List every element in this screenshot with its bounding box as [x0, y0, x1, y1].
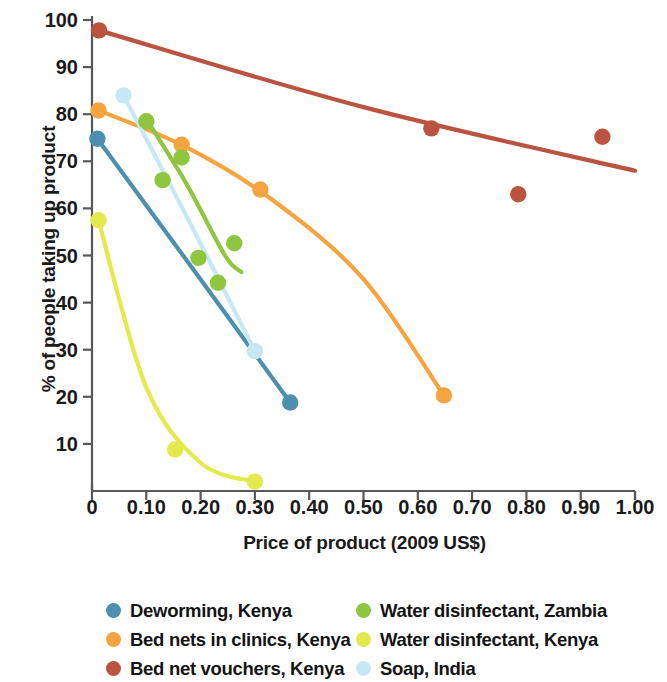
data-point: [91, 22, 107, 38]
legend-item[interactable]: Bed net vouchers, Kenya: [106, 658, 356, 680]
series-water-disinfectant-zambia: [146, 119, 241, 272]
series-line: [99, 110, 444, 395]
series-line: [97, 139, 290, 403]
data-point: [282, 394, 298, 410]
data-point: [90, 102, 106, 118]
legend-item[interactable]: Soap, India: [356, 658, 636, 680]
legend-label: Soap, India: [380, 658, 475, 680]
data-point: [226, 235, 242, 251]
data-point: [247, 343, 263, 359]
data-point: [252, 181, 268, 197]
chart-container: % of people taking up product 1020304050…: [0, 0, 667, 682]
data-point: [210, 275, 226, 291]
series-deworming-kenya: [97, 139, 290, 403]
legend-swatch-icon: [106, 632, 121, 647]
series-line: [123, 95, 254, 351]
plot-area: [0, 0, 667, 510]
legend-label: Water disinfectant, Zambia: [380, 600, 607, 622]
legend-swatch-icon: [356, 661, 371, 676]
legend-label: Bed nets in clinics, Kenya: [130, 629, 350, 651]
x-axis-title: Price of product (2009 US$): [92, 532, 637, 554]
data-point: [115, 87, 131, 103]
data-point: [154, 172, 170, 188]
x-axis-tick-label: 1.00: [598, 497, 667, 517]
series-bed-nets-in-clinics-kenya: [99, 110, 444, 395]
data-point: [167, 441, 183, 457]
series-markers: [90, 102, 452, 403]
series-line: [146, 119, 241, 272]
legend-item[interactable]: Water disinfectant, Zambia: [356, 600, 636, 622]
data-point: [89, 130, 105, 146]
data-point: [436, 387, 452, 403]
legend-swatch-icon: [356, 603, 371, 618]
legend-swatch-icon: [106, 661, 121, 676]
data-point: [173, 149, 189, 165]
legend-label: Deworming, Kenya: [130, 600, 292, 622]
legend-swatch-icon: [356, 632, 371, 647]
legend-item[interactable]: Deworming, Kenya: [106, 600, 356, 622]
data-point: [247, 473, 263, 489]
data-point: [190, 250, 206, 266]
legend-item[interactable]: Water disinfectant, Kenya: [356, 629, 636, 651]
legend-swatch-icon: [106, 603, 121, 618]
data-point: [90, 212, 106, 228]
legend-label: Water disinfectant, Kenya: [380, 629, 598, 651]
data-point: [138, 113, 154, 129]
chart-legend: Deworming, KenyaWater disinfectant, Zamb…: [106, 596, 646, 682]
legend-item[interactable]: Bed nets in clinics, Kenya: [106, 629, 356, 651]
data-point: [594, 129, 610, 145]
series-soap-india: [123, 95, 254, 351]
legend-label: Bed net vouchers, Kenya: [130, 658, 344, 680]
series-markers: [90, 212, 263, 490]
data-point: [510, 186, 526, 202]
data-point: [423, 120, 439, 136]
